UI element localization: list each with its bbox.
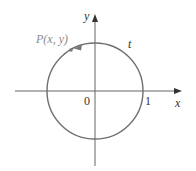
x-axis-label: x xyxy=(175,97,180,109)
unit-circle-diagram: P(x, y) t 0 1 x y xyxy=(0,0,196,171)
point-p xyxy=(69,48,73,52)
diagram-canvas xyxy=(0,0,196,171)
point-label: P(x, y) xyxy=(36,33,68,45)
arc-label: t xyxy=(128,38,131,50)
y-axis-arrow-icon xyxy=(92,14,98,22)
x-axis-arrow-icon xyxy=(174,88,182,94)
one-label: 1 xyxy=(145,95,151,107)
origin-label: 0 xyxy=(84,95,90,107)
y-axis-label: y xyxy=(84,10,89,22)
